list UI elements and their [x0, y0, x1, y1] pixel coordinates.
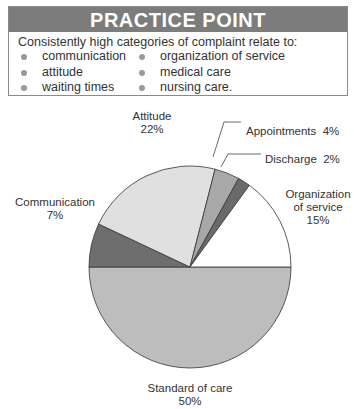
bullet-icon [21, 54, 27, 60]
label-standard-of-care: Standard of care 50% [130, 382, 250, 408]
bullet-icon [139, 70, 145, 76]
list-item: attitude [21, 65, 147, 81]
label-attitude: Attitude 22% [127, 110, 177, 136]
bullet-icon [21, 85, 27, 91]
list-item: nursing care. [139, 80, 339, 96]
list-item: organization of service [139, 49, 339, 65]
practice-point-title: PRACTICE POINT [9, 7, 347, 32]
label-communication: Communication 7% [10, 196, 100, 222]
bullet-icon [139, 85, 145, 91]
practice-point-intro: Consistently high categories of complain… [18, 35, 347, 49]
leader-line-discharge [221, 154, 261, 167]
list-item: waiting times [21, 80, 147, 96]
label-appointments: Appointments 4% [246, 125, 339, 138]
bullet-icon [21, 70, 27, 76]
label-discharge: Discharge 2% [265, 153, 340, 166]
bullet-icon [139, 54, 145, 60]
left-list: communication attitude waiting times [21, 49, 147, 96]
complaints-pie-chart: Attitude 22% Communication 7% Appointmen… [0, 110, 354, 409]
practice-point-box: PRACTICE POINT Consistently high categor… [8, 6, 348, 96]
label-organization: Organization of service 15% [282, 188, 354, 227]
leader-line-appointments [213, 122, 241, 157]
list-item: medical care [139, 65, 339, 81]
pie-slice-standard-of-care [89, 267, 291, 368]
list-item: communication [21, 49, 147, 65]
right-list: organization of service medical care nur… [139, 49, 339, 96]
